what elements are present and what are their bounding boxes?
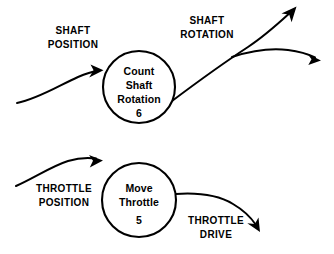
process-count-shaft-rotation-line1: Count [124, 65, 155, 77]
process-move-throttle-line1: Move [125, 182, 152, 194]
process-count-shaft-rotation-number: 6 [136, 107, 142, 119]
flow-shaft-position-arrowhead [89, 64, 103, 77]
process-count-shaft-rotation-line3: Rotation [117, 93, 160, 105]
flow-shaft-rotation-branch-right-line [232, 49, 315, 57]
flow-shaft-position-line [17, 71, 99, 104]
flow-throttle-drive-arrowhead [247, 218, 260, 233]
data-flow-diagram: Count Shaft Rotation 6 SHAFT POSITION SH… [0, 0, 334, 254]
flow-label-shaft-rotation-line1: SHAFT [189, 15, 224, 26]
flow-label-shaft-position-line2: POSITION [48, 39, 99, 50]
flow-label-shaft-position-line1: SHAFT [55, 25, 90, 36]
process-move-throttle-line2: Throttle [119, 196, 159, 208]
diagram-canvas: Count Shaft Rotation 6 SHAFT POSITION SH… [0, 0, 334, 254]
flow-throttle-position [16, 155, 103, 186]
flow-shaft-rotation-branch-right-arrowhead [308, 54, 322, 65]
process-move-throttle-number: 5 [136, 214, 142, 226]
flow-label-shaft-rotation-line2: ROTATION [180, 29, 234, 40]
flow-throttle-position-line [16, 158, 96, 186]
flow-shaft-rotation-branch-up-arrowhead [282, 7, 297, 23]
flow-label-throttle-position-line1: THROTTLE [36, 183, 92, 194]
flow-label-throttle-drive-line2: DRIVE [200, 229, 232, 240]
flow-throttle-position-arrowhead [89, 155, 103, 168]
flow-label-throttle-drive-line1: THROTTLE [188, 215, 244, 226]
flow-shaft-position [17, 64, 104, 103]
flow-throttle-drive [176, 194, 260, 232]
process-count-shaft-rotation-line2: Shaft [126, 79, 153, 91]
flow-label-throttle-position-line2: POSITION [39, 197, 90, 208]
